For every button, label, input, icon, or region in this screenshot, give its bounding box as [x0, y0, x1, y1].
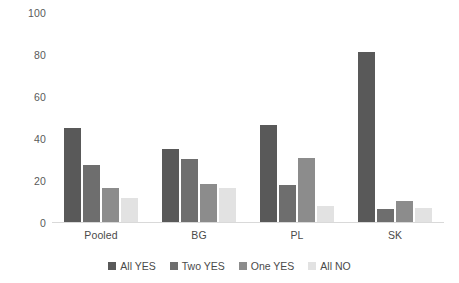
bar-pl-one-yes[interactable]: [298, 158, 315, 222]
bar-group-bg: [150, 12, 248, 222]
y-tick-40: 40: [2, 134, 46, 145]
x-label-bg: BG: [150, 230, 248, 241]
bar-pooled-all-no[interactable]: [121, 198, 138, 222]
bar-pl-two-yes[interactable]: [279, 185, 296, 222]
bar-bg-all-yes[interactable]: [162, 149, 179, 223]
legend-item-all-no[interactable]: All NO: [308, 261, 350, 272]
legend-label-two-yes: Two YES: [182, 261, 225, 272]
chart-legend: All YES Two YES One YES All NO: [0, 261, 459, 272]
bar-sk-two-yes[interactable]: [377, 209, 394, 222]
bar-pl-all-yes[interactable]: [260, 125, 277, 222]
plot-area: [52, 12, 444, 222]
bar-bg-all-no[interactable]: [219, 188, 236, 222]
bar-sk-all-no[interactable]: [415, 208, 432, 222]
legend-swatch-two-yes: [170, 262, 178, 270]
bar-bg-one-yes[interactable]: [200, 184, 217, 222]
bar-pl-all-no[interactable]: [317, 206, 334, 222]
bar-sk-one-yes[interactable]: [396, 201, 413, 222]
y-tick-100: 100: [2, 8, 46, 19]
legend-label-all-yes: All YES: [120, 261, 155, 272]
legend-item-two-yes[interactable]: Two YES: [170, 261, 225, 272]
y-axis: 100 80 60 40 20 0: [0, 0, 46, 234]
y-tick-80: 80: [2, 50, 46, 61]
x-label-pooled: Pooled: [52, 230, 150, 241]
bar-sk-all-yes[interactable]: [358, 52, 375, 222]
x-label-pl: PL: [248, 230, 346, 241]
bar-pooled-all-yes[interactable]: [64, 128, 81, 223]
bar-chart: 100 80 60 40 20 0: [0, 0, 459, 283]
y-tick-60: 60: [2, 92, 46, 103]
x-label-sk: SK: [346, 230, 444, 241]
y-tick-20: 20: [2, 176, 46, 187]
x-axis-baseline: [52, 222, 444, 223]
bar-group-pl: [248, 12, 346, 222]
bar-pooled-two-yes[interactable]: [83, 165, 100, 222]
bar-group-sk: [346, 12, 444, 222]
legend-swatch-all-no: [308, 262, 316, 270]
y-tick-0: 0: [2, 218, 46, 229]
legend-swatch-one-yes: [239, 262, 247, 270]
legend-swatch-all-yes: [108, 262, 116, 270]
bar-pooled-one-yes[interactable]: [102, 188, 119, 222]
legend-item-one-yes[interactable]: One YES: [239, 261, 295, 272]
bar-bg-two-yes[interactable]: [181, 159, 198, 222]
bar-group-pooled: [52, 12, 150, 222]
legend-label-one-yes: One YES: [251, 261, 295, 272]
legend-item-all-yes[interactable]: All YES: [108, 261, 155, 272]
legend-label-all-no: All NO: [320, 261, 350, 272]
